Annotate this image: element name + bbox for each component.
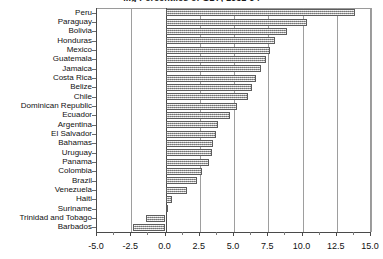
x-axis-tick <box>302 232 303 236</box>
category-label: Belize <box>70 83 92 91</box>
x-axis-tick <box>370 232 371 236</box>
bar <box>166 37 276 44</box>
bar <box>166 65 262 72</box>
y-axis-tick <box>92 59 96 60</box>
y-axis-tick <box>92 171 96 172</box>
y-axis-tick <box>92 22 96 23</box>
y-axis-tick <box>92 87 96 88</box>
gridline <box>303 8 304 232</box>
x-axis-minor-tick <box>182 232 183 235</box>
bar <box>166 75 256 82</box>
category-label: Brazil <box>72 177 92 185</box>
bar <box>133 224 166 231</box>
gridline <box>337 8 338 232</box>
x-axis-minor-tick <box>353 232 354 235</box>
x-axis-minor-tick <box>216 232 217 235</box>
bar <box>166 187 188 194</box>
bar <box>166 159 210 166</box>
y-axis-tick <box>92 153 96 154</box>
bar <box>166 84 252 91</box>
category-label: El Salvador <box>51 130 92 138</box>
category-label: Barbados <box>58 223 92 231</box>
category-label: Argentina <box>58 121 92 129</box>
category-label: Panama <box>62 158 92 166</box>
y-axis-tick <box>92 181 96 182</box>
x-axis-tick <box>267 232 268 236</box>
y-axis-tick <box>92 162 96 163</box>
x-axis-minor-tick <box>319 232 320 235</box>
x-axis-minor-tick <box>113 232 114 235</box>
y-axis-tick <box>92 106 96 107</box>
y-axis-tick <box>92 97 96 98</box>
category-label: Ecuador <box>62 111 92 119</box>
category-label: Colombia <box>58 167 92 175</box>
x-axis-minor-tick <box>250 232 251 235</box>
x-axis-tick-label: 15.0 <box>361 241 379 251</box>
y-axis-tick <box>92 143 96 144</box>
bar <box>166 168 203 175</box>
x-axis-tick-label: 10.0 <box>293 241 311 251</box>
category-label: Trinidad and Tobago <box>20 214 93 222</box>
bar <box>166 93 248 100</box>
y-axis-tick <box>92 69 96 70</box>
plot-area <box>96 8 370 232</box>
y-axis-tick <box>92 134 96 135</box>
y-axis-tick <box>92 31 96 32</box>
category-label: Guatemala <box>53 55 92 63</box>
bar <box>166 177 198 184</box>
x-axis-tick-label: 2.5 <box>192 241 205 251</box>
category-label: Mexico <box>67 46 92 54</box>
y-axis-tick <box>92 50 96 51</box>
x-axis-minor-tick <box>284 232 285 235</box>
x-axis-tick <box>336 232 337 236</box>
category-label: Honduras <box>57 37 92 45</box>
bar <box>166 196 173 203</box>
bar <box>166 47 270 54</box>
bar <box>166 103 237 110</box>
bar <box>146 215 165 222</box>
chart-container: ...g Percentiles of GDP, 1951-94 PeruPar… <box>0 0 383 259</box>
chart-title: ...g Percentiles of GDP, 1951-94 <box>0 0 383 2</box>
category-label: Uruguay <box>62 149 92 157</box>
y-axis-tick <box>92 209 96 210</box>
bar <box>166 121 218 128</box>
y-axis-tick <box>92 218 96 219</box>
category-label: Suriname <box>58 205 92 213</box>
bar <box>166 149 213 156</box>
bar <box>166 28 288 35</box>
x-axis-tick-label: 5.0 <box>227 241 240 251</box>
bar <box>166 9 355 16</box>
x-axis-tick-label: -5.0 <box>88 241 104 251</box>
category-label: Costa Rica <box>53 74 92 82</box>
category-label: Jamaica <box>62 65 92 73</box>
category-label: Dominican Republic <box>21 102 92 110</box>
y-axis-tick <box>92 227 96 228</box>
y-axis-tick <box>92 190 96 191</box>
x-axis-tick <box>233 232 234 236</box>
y-axis-tick <box>92 13 96 14</box>
y-axis-tick <box>92 78 96 79</box>
x-axis-tick-label: -2.5 <box>122 241 138 251</box>
x-axis-tick <box>165 232 166 236</box>
category-label: Bolivia <box>68 27 92 35</box>
bar <box>166 140 214 147</box>
bar <box>166 205 168 212</box>
x-axis-tick <box>96 232 97 236</box>
category-label: Haiti <box>76 195 92 203</box>
y-axis-tick <box>92 199 96 200</box>
category-label: Peru <box>75 9 92 17</box>
bar <box>166 19 307 26</box>
bar <box>166 56 266 63</box>
y-axis-tick <box>92 125 96 126</box>
gridline <box>371 8 372 232</box>
x-axis-minor-tick <box>147 232 148 235</box>
category-label: Paraguay <box>58 18 92 26</box>
y-axis-tick <box>92 115 96 116</box>
category-label: Bahamas <box>58 139 92 147</box>
category-axis-labels: PeruParaguayBoliviaHondurasMexicoGuatema… <box>0 8 92 232</box>
gridline <box>131 8 132 232</box>
x-axis-tick-label: 0.0 <box>158 241 171 251</box>
bar <box>166 131 217 138</box>
x-axis-tick-label: 12.5 <box>327 241 345 251</box>
x-axis-tick <box>130 232 131 236</box>
